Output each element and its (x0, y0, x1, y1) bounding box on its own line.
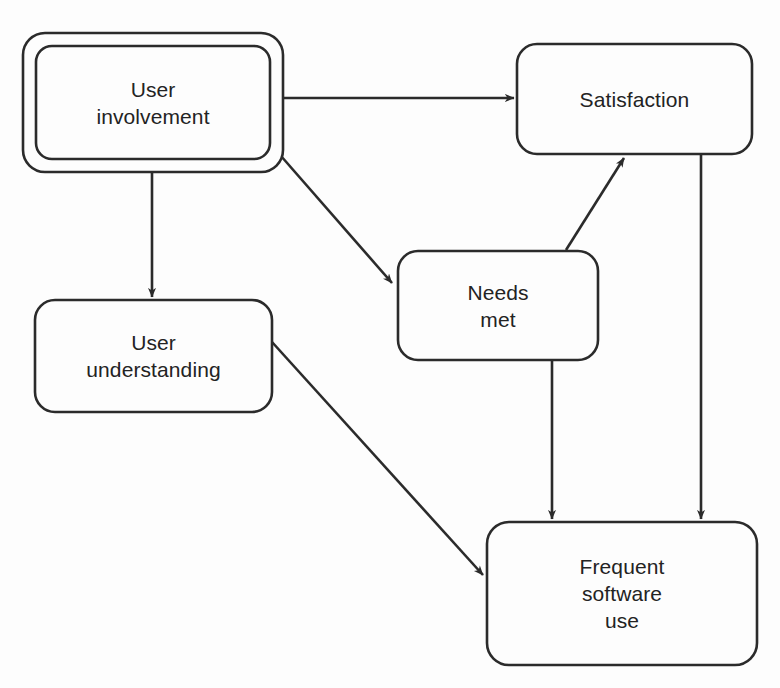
diagram-canvas: User involvement Satisfaction Needs met … (0, 0, 780, 688)
edge-understanding-to-frequent-use (272, 342, 483, 575)
node-shape-user-involvement-inner (36, 46, 270, 159)
node-shape-satisfaction[interactable] (517, 44, 752, 154)
node-shape-layer (23, 33, 757, 665)
node-shape-needs-met[interactable] (398, 251, 598, 360)
node-shape-frequent-software-use[interactable] (487, 522, 757, 665)
edge-involvement-to-needs-met (281, 156, 392, 283)
diagram-svg (0, 0, 780, 688)
node-shape-user-understanding[interactable] (35, 300, 272, 412)
edge-needs-met-to-satisfaction (566, 158, 624, 250)
